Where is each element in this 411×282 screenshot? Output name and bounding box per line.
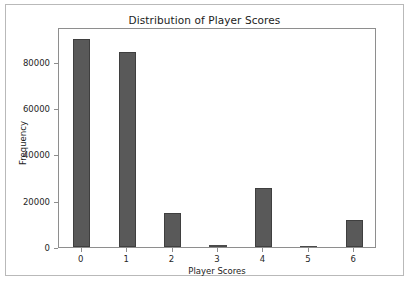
- y-axis-label: Frequency: [18, 83, 28, 203]
- y-tick-label: 20000: [4, 197, 50, 207]
- bar: [346, 220, 363, 247]
- y-tick-label: 60000: [4, 104, 50, 114]
- x-axis-label: Player Scores: [58, 266, 376, 276]
- x-tick-label: 3: [202, 254, 232, 264]
- bars-container: [59, 29, 375, 247]
- y-tick-mark: [54, 248, 58, 249]
- plot-area: [58, 28, 376, 248]
- bar: [255, 188, 272, 247]
- x-tick-label: 5: [293, 254, 323, 264]
- y-tick-label: 80000: [4, 58, 50, 68]
- x-tick-mark: [126, 248, 127, 252]
- bar: [209, 245, 226, 247]
- x-tick-label: 4: [247, 254, 277, 264]
- y-tick-label: 40000: [4, 150, 50, 160]
- chart-title: Distribution of Player Scores: [6, 14, 403, 26]
- x-tick-mark: [308, 248, 309, 252]
- bar: [73, 39, 90, 247]
- chart-figure: Distribution of Player Scores Frequency …: [5, 4, 404, 276]
- x-tick-label: 6: [338, 254, 368, 264]
- x-tick-mark: [172, 248, 173, 252]
- x-tick-mark: [262, 248, 263, 252]
- bar: [300, 246, 317, 247]
- x-tick-label: 0: [66, 254, 96, 264]
- x-tick-label: 2: [157, 254, 187, 264]
- x-tick-mark: [81, 248, 82, 252]
- bar: [164, 213, 181, 247]
- bar: [119, 52, 136, 247]
- x-tick-mark: [217, 248, 218, 252]
- y-tick-label: 0: [4, 243, 50, 253]
- x-tick-label: 1: [111, 254, 141, 264]
- x-tick-mark: [353, 248, 354, 252]
